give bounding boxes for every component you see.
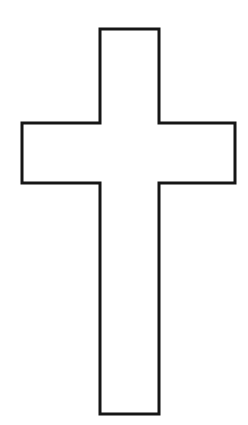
cross-illustration (0, 0, 248, 425)
page-background (0, 0, 248, 425)
